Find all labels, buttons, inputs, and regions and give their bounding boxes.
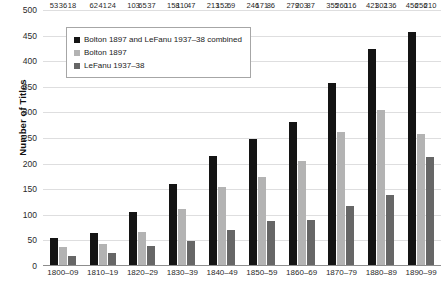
bar-container: 355 [328, 10, 336, 265]
bar-value-label: 116 [344, 2, 356, 10]
bar[interactable]: 87 [307, 220, 315, 265]
y-axis-tick-label: 450 [23, 31, 37, 41]
y-axis-tick-label: 300 [23, 107, 37, 117]
bar[interactable]: 203 [298, 161, 306, 265]
bar[interactable]: 260 [337, 132, 345, 265]
bar-container: 260 [337, 10, 345, 265]
bar[interactable]: 302 [377, 110, 385, 265]
bar-value-label: 53 [50, 2, 58, 10]
legend-item[interactable]: Bolton 1897 and LeFanu 1937–38 combined [74, 33, 242, 46]
legend-item-label: Bolton 1897 [84, 48, 127, 57]
bar-container: 210 [426, 10, 434, 265]
bar-container: 87 [307, 10, 315, 265]
bar-container: 86 [267, 10, 275, 265]
x-axis-tick-label: 1820–29 [123, 268, 163, 277]
bar-container: 421 [368, 10, 376, 265]
y-axis-tick-label: 50 [28, 235, 37, 245]
bar-value-label: 37 [147, 2, 155, 10]
x-axis-tick-labels: 1800–091810–191820–291830–391840–491850–… [43, 268, 441, 277]
legend-item[interactable]: Bolton 1897 [74, 46, 242, 59]
bar[interactable]: 136 [386, 195, 394, 265]
x-axis-tick-label: 1840–49 [202, 268, 242, 277]
bar[interactable]: 213 [209, 156, 217, 265]
bar[interactable]: 110 [178, 209, 186, 265]
bar-value-label: 36 [59, 2, 67, 10]
legend-item-label: LeFanu 1937–38 [84, 61, 145, 70]
bar[interactable]: 103 [129, 212, 137, 265]
x-axis-tick-label: 1880–89 [361, 268, 401, 277]
bar[interactable]: 18 [68, 256, 76, 265]
x-axis-tick-label: 1810–19 [83, 268, 123, 277]
bar[interactable]: 24 [108, 253, 116, 265]
bar[interactable]: 279 [289, 122, 297, 265]
bar-container: 203 [298, 10, 306, 265]
bar[interactable]: 421 [368, 49, 376, 265]
legend-swatch-icon [74, 37, 80, 43]
bar[interactable]: 210 [426, 157, 434, 265]
bar-value-label: 24 [108, 2, 116, 10]
bar-value-label: 136 [384, 2, 397, 10]
bar-value-label: 210 [424, 2, 437, 10]
bar-container: 53 [50, 10, 58, 265]
x-axis-tick-label: 1890–99 [401, 268, 441, 277]
y-axis-tick-label: 200 [23, 159, 37, 169]
bar-container: 302 [377, 10, 385, 265]
bar-value-label: 65 [138, 2, 146, 10]
y-axis-tick-labels: 500450400350300250200150100500 [0, 0, 41, 266]
bar-group: 355260116 [322, 10, 362, 265]
bar[interactable]: 36 [59, 247, 67, 265]
bar-group: 27920387 [282, 10, 322, 265]
bar[interactable]: 256 [417, 134, 425, 265]
bar[interactable]: 41 [99, 244, 107, 265]
y-axis-tick-label: 500 [23, 5, 37, 15]
bar-container: 279 [289, 10, 297, 265]
bar[interactable]: 158 [169, 184, 177, 265]
bar-chart: Number of Titles 50045040035030025020015… [0, 0, 445, 300]
bar[interactable]: 65 [138, 232, 146, 265]
legend-swatch-icon [74, 50, 80, 56]
bar-container: 256 [417, 10, 425, 265]
bar[interactable]: 246 [249, 139, 257, 265]
x-axis-tick-label: 1800–09 [43, 268, 83, 277]
bar[interactable]: 47 [187, 241, 195, 265]
bar-value-label: 62 [90, 2, 98, 10]
bar-value-label: 41 [99, 2, 107, 10]
bar-group: 421302136 [361, 10, 401, 265]
bar-value-label: 69 [227, 2, 235, 10]
bar[interactable]: 152 [218, 187, 226, 265]
bar-value-label: 18 [68, 2, 76, 10]
bar-value-label: 86 [267, 2, 275, 10]
x-axis-tick-label: 1860–69 [282, 268, 322, 277]
legend-swatch-icon [74, 63, 80, 69]
chart-legend: Bolton 1897 and LeFanu 1937–38 combinedB… [66, 27, 251, 78]
bar[interactable]: 355 [328, 83, 336, 265]
bar[interactable]: 171 [258, 177, 266, 265]
bar[interactable]: 86 [267, 221, 275, 265]
bar-container: 116 [346, 10, 354, 265]
bar-value-label: 47 [187, 2, 195, 10]
y-axis-tick-label: 0 [32, 261, 37, 271]
legend-item-label: Bolton 1897 and LeFanu 1937–38 combined [84, 35, 242, 44]
bar-container: 456 [408, 10, 416, 265]
x-axis-tick-label: 1850–59 [242, 268, 282, 277]
y-axis-tick-label: 150 [23, 184, 37, 194]
bar[interactable]: 62 [90, 233, 98, 265]
x-axis-tick-label: 1830–39 [162, 268, 202, 277]
bar[interactable]: 116 [346, 206, 354, 265]
bar[interactable]: 69 [227, 230, 235, 265]
y-axis-tick-label: 350 [23, 82, 37, 92]
bar[interactable]: 53 [50, 238, 58, 265]
y-axis-tick-label: 100 [23, 210, 37, 220]
bar-value-label: 87 [307, 2, 315, 10]
y-axis-tick-label: 400 [23, 56, 37, 66]
bar[interactable]: 456 [408, 32, 416, 265]
x-axis-tick-label: 1870–79 [322, 268, 362, 277]
legend-item[interactable]: LeFanu 1937–38 [74, 59, 242, 72]
bar-container: 136 [386, 10, 394, 265]
bar-group: 456256210 [401, 10, 441, 265]
y-axis-tick-label: 250 [23, 133, 37, 143]
bar-container: 171 [258, 10, 266, 265]
bar[interactable]: 37 [147, 246, 155, 265]
